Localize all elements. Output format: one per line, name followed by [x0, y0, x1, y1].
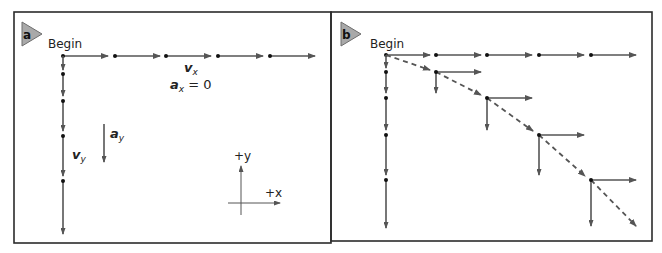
position-dot — [384, 133, 388, 137]
plus-y-label: +y — [234, 149, 251, 163]
position-dot — [537, 133, 541, 137]
position-dot — [61, 72, 65, 76]
panel-a-badge: a — [22, 22, 42, 46]
panel-b-vertical-column — [384, 55, 388, 228]
vx-label: vx — [184, 60, 198, 77]
position-dot — [589, 178, 593, 182]
resultant-velocity-dashed-arrow — [591, 180, 636, 226]
panel-a-begin-label: Begin — [48, 37, 82, 51]
panel-b-horizontal-row — [384, 53, 636, 57]
position-dot — [434, 70, 438, 74]
projectile-motion-diagram: a Begin vx — [0, 0, 662, 253]
panel-b-badge-label: b — [342, 28, 351, 42]
panel-b-begin-label: Begin — [370, 37, 404, 51]
resultant-velocity-dashed-arrow — [487, 98, 533, 131]
position-dot — [384, 70, 388, 74]
position-dot — [589, 53, 593, 57]
plus-x-label: +x — [265, 186, 282, 200]
panel-b: b Begin — [331, 12, 652, 241]
position-dot — [113, 54, 117, 58]
position-dot — [537, 53, 541, 57]
ay-label: ay — [110, 126, 125, 143]
vy-label: vy — [72, 147, 86, 164]
position-dot — [61, 134, 65, 138]
position-dot — [164, 54, 168, 58]
resultant-velocity-dashed-arrow — [386, 55, 430, 70]
position-dot — [384, 96, 388, 100]
resultant-velocity-dashed-arrow — [436, 72, 481, 95]
position-dot — [216, 54, 220, 58]
panel-b-trajectory — [386, 55, 636, 226]
panel-a-badge-label: a — [23, 28, 31, 42]
position-dot — [485, 96, 489, 100]
position-dot — [434, 53, 438, 57]
position-dot — [61, 99, 65, 103]
panel-a-vertical-velocity-vectors — [61, 56, 65, 234]
panel-a-horizontal-velocity-vectors — [61, 54, 315, 58]
position-dot — [485, 53, 489, 57]
ax-equation: ax = 0 — [170, 77, 212, 94]
position-dot — [384, 178, 388, 182]
position-dot — [268, 54, 272, 58]
position-dot — [61, 179, 65, 183]
coordinate-axes: +y +x — [228, 149, 282, 215]
panel-b-badge: b — [341, 22, 361, 46]
panel-a: a Begin vx — [14, 12, 331, 243]
resultant-velocity-dashed-arrow — [539, 135, 585, 176]
